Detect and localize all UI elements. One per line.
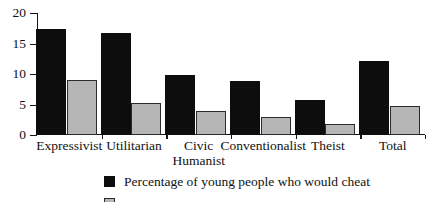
- y-tick-mark: [30, 13, 37, 14]
- legend-swatch-dark: [104, 176, 115, 187]
- y-tick-label: 20: [13, 6, 27, 20]
- bar: [359, 61, 389, 135]
- chart-legend: Percentage of young people who would che…: [104, 173, 430, 202]
- bar-group: [102, 13, 167, 135]
- legend-swatch-light: [104, 198, 115, 202]
- bar: [295, 100, 325, 135]
- legend-label-dark: Percentage of young people who would che…: [124, 174, 370, 190]
- bar: [325, 124, 355, 135]
- bar: [131, 103, 161, 135]
- legend-item-second: [104, 195, 430, 202]
- y-tick-mark: [30, 135, 37, 136]
- y-tick-label: 15: [13, 37, 27, 51]
- bar: [67, 80, 97, 135]
- y-tick-label: 10: [13, 67, 27, 81]
- bar: [36, 29, 66, 135]
- bar: [165, 75, 195, 135]
- bar: [390, 106, 420, 135]
- bar-group: [37, 13, 102, 135]
- bar: [261, 117, 291, 135]
- bar: [101, 33, 131, 135]
- bar-group: [360, 13, 425, 135]
- bar-chart-figure: 05101520 ExpressivistUtilitarianCivic Hu…: [0, 0, 430, 202]
- bar: [196, 111, 226, 135]
- bar-group: [231, 13, 296, 135]
- bar-group: [166, 13, 231, 135]
- bar-group: [296, 13, 361, 135]
- bar: [230, 81, 260, 135]
- category-label: Total: [348, 138, 430, 153]
- legend-item-cheat: Percentage of young people who would che…: [104, 173, 430, 190]
- y-tick-label: 5: [19, 98, 26, 112]
- plot-area: 05101520: [37, 13, 425, 135]
